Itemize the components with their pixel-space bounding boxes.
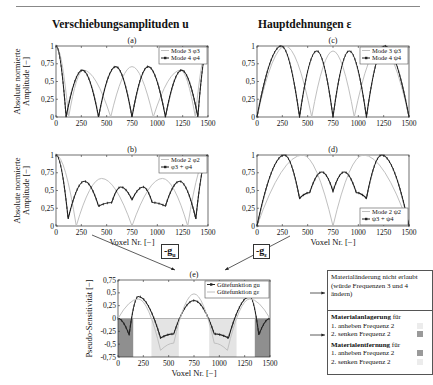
chart-c: 025050075010001250150000,250,50,751(c)Mo…	[242, 36, 417, 128]
svg-text:0,25: 0,25	[41, 204, 54, 213]
svg-text:0,5: 0,5	[246, 77, 256, 86]
svg-text:Mode 2 ψ2: Mode 2 ψ2	[372, 208, 401, 215]
svg-text:1: 1	[50, 42, 54, 51]
svg-text:1250: 1250	[376, 119, 391, 128]
note-material-change-forbidden: Materialänderung nicht erlaubt (würde Fr…	[327, 270, 433, 314]
svg-text:(a): (a)	[128, 36, 137, 45]
svg-text:0: 0	[255, 119, 259, 128]
svg-text:Gütefunktion gε: Gütefunktion gε	[217, 288, 260, 295]
svg-text:0: 0	[255, 228, 259, 237]
svg-text:-0,75: -0,75	[100, 353, 116, 362]
svg-text:1500: 1500	[263, 359, 278, 368]
svg-text:1500: 1500	[402, 228, 417, 237]
svg-text:1000: 1000	[351, 119, 366, 128]
svg-text:0,75: 0,75	[41, 59, 54, 68]
svg-text:0,75: 0,75	[41, 168, 54, 177]
svg-text:1250: 1250	[175, 228, 190, 237]
svg-text:-0,5: -0,5	[104, 340, 116, 349]
svg-text:φ3 + φ4: φ3 + φ4	[171, 163, 193, 170]
svg-text:250: 250	[277, 228, 289, 237]
chart-d: 025050075010001250150000,250,50,751(d)Mo…	[242, 145, 417, 247]
svg-text:0,5: 0,5	[45, 77, 55, 86]
svg-text:0: 0	[50, 222, 54, 231]
note-material-add-remove: Materialanlagerung für 1. anheben Freque…	[327, 310, 433, 375]
svg-text:0,25: 0,25	[103, 301, 116, 310]
svg-text:0: 0	[116, 359, 120, 368]
svg-text:Amplitude [−]: Amplitude [−]	[21, 57, 31, 106]
svg-text:0,75: 0,75	[242, 59, 255, 68]
svg-text:0,25: 0,25	[242, 204, 255, 213]
svg-text:0: 0	[251, 113, 255, 122]
svg-text:1250: 1250	[175, 119, 190, 128]
svg-text:750: 750	[126, 119, 138, 128]
svg-text:(e): (e)	[190, 270, 199, 279]
svg-text:Mode 4 φ4: Mode 4 φ4	[171, 54, 200, 61]
svg-text:ψ3 + ψ4: ψ3 + ψ4	[372, 215, 394, 222]
svg-text:1000: 1000	[150, 228, 165, 237]
svg-text:Gütefunktion gu: Gütefunktion gu	[217, 281, 261, 288]
svg-text:1500: 1500	[201, 119, 216, 128]
svg-text:1250: 1250	[376, 228, 391, 237]
svg-text:250: 250	[277, 119, 289, 128]
svg-text:Mode 2 φ2: Mode 2 φ2	[171, 156, 200, 163]
svg-text:1500: 1500	[402, 119, 417, 128]
chart-a: 025050075010001250150000,250,50,751(a)Mo…	[12, 36, 216, 128]
chart-e: 0250500750100012501500-0,75-0,5-0,2500,2…	[84, 270, 278, 378]
svg-text:Mode 4 ψ4: Mode 4 ψ4	[372, 54, 402, 61]
gradient-label-e: -gε	[253, 244, 270, 259]
svg-text:0,75: 0,75	[103, 276, 116, 285]
svg-text:1000: 1000	[212, 359, 227, 368]
svg-text:0: 0	[54, 119, 58, 128]
svg-text:1: 1	[251, 151, 255, 160]
svg-text:0,75: 0,75	[242, 168, 255, 177]
svg-text:1250: 1250	[237, 359, 252, 368]
chart-b: 025050075010001250150000,250,50,751(b)Mo…	[12, 145, 216, 247]
svg-text:250: 250	[76, 228, 88, 237]
svg-text:750: 750	[126, 228, 138, 237]
svg-text:0,25: 0,25	[242, 95, 255, 104]
svg-text:0,5: 0,5	[107, 288, 117, 297]
svg-text:0,5: 0,5	[246, 186, 256, 195]
svg-text:0: 0	[50, 113, 54, 122]
svg-text:500: 500	[101, 119, 113, 128]
svg-text:Voxel Nr. [−]: Voxel Nr. [−]	[171, 368, 216, 378]
svg-text:Mode 3 ψ3: Mode 3 ψ3	[372, 47, 401, 54]
svg-text:0,25: 0,25	[41, 95, 54, 104]
svg-text:1: 1	[251, 42, 255, 51]
svg-text:0,5: 0,5	[45, 186, 55, 195]
svg-text:1500: 1500	[201, 228, 216, 237]
svg-text:750: 750	[327, 228, 339, 237]
svg-text:Amplitude [−]: Amplitude [−]	[21, 166, 31, 215]
swatch-dark	[417, 350, 423, 356]
svg-text:1: 1	[50, 151, 54, 160]
svg-text:250: 250	[138, 359, 150, 368]
svg-text:Pseudo-Sensitivität [−]: Pseudo-Sensitivität [−]	[84, 279, 94, 357]
svg-text:750: 750	[188, 359, 200, 368]
svg-text:500: 500	[302, 119, 314, 128]
svg-text:500: 500	[302, 228, 314, 237]
svg-text:1000: 1000	[351, 228, 366, 237]
svg-text:(c): (c)	[329, 36, 338, 45]
svg-text:(b): (b)	[127, 145, 137, 154]
svg-text:0: 0	[251, 222, 255, 231]
svg-text:500: 500	[163, 359, 175, 368]
svg-text:500: 500	[101, 228, 113, 237]
swatch-light	[417, 323, 423, 329]
svg-text:(d): (d)	[328, 145, 338, 154]
svg-text:750: 750	[327, 119, 339, 128]
swatch-light	[417, 359, 423, 365]
svg-text:1000: 1000	[150, 119, 165, 128]
swatch-dark	[417, 331, 423, 337]
gradient-label-u: -gu	[161, 244, 179, 259]
svg-text:-0,25: -0,25	[100, 327, 116, 336]
svg-text:0: 0	[54, 228, 58, 237]
svg-text:250: 250	[76, 119, 88, 128]
svg-text:Voxel Nr. [−]: Voxel Nr. [−]	[310, 237, 355, 247]
svg-text:Mode 3 φ3: Mode 3 φ3	[171, 47, 200, 54]
svg-text:0: 0	[112, 314, 116, 323]
